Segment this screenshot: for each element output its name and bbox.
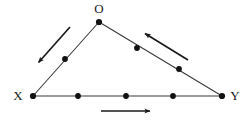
vertex-label-Y: Y xyxy=(230,88,240,103)
point-oy-1 xyxy=(134,45,140,51)
vertex-points xyxy=(30,19,225,99)
direction-arrows xyxy=(39,27,189,111)
point-xy-1 xyxy=(75,93,81,99)
point-xy-2 xyxy=(123,93,129,99)
arrow-right-YO xyxy=(145,34,188,61)
marked-points xyxy=(62,45,182,99)
point-oy-2 xyxy=(176,66,182,72)
vertex-point-X xyxy=(30,93,36,99)
triangle-sides xyxy=(33,22,222,96)
triangle-diagram-canvas: O X Y xyxy=(0,0,249,126)
geometry-diagram: O X Y xyxy=(0,0,249,126)
vertex-label-O: O xyxy=(94,1,103,16)
side-OY xyxy=(99,22,222,96)
vertex-point-O xyxy=(96,19,102,25)
point-ox-1 xyxy=(62,56,68,62)
vertex-point-Y xyxy=(219,93,225,99)
vertex-label-X: X xyxy=(13,88,23,103)
point-xy-3 xyxy=(170,93,176,99)
